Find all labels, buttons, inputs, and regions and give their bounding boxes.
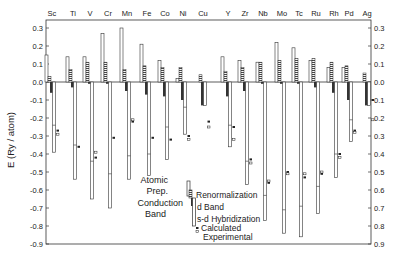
legend-calc-marker — [196, 227, 199, 229]
renormalization-bar — [123, 69, 126, 82]
atomic-prep-bar — [292, 48, 295, 82]
y-tick-label: -0.6 — [30, 186, 43, 195]
y-tick-label: 0.2 — [33, 42, 43, 51]
experimental-marker — [132, 119, 135, 121]
y-tick-label-right: 0.0 — [374, 78, 384, 87]
conduction-band-bar — [368, 82, 371, 105]
y-tick-label: -0.9 — [30, 240, 43, 249]
atomic-prep-bar — [66, 57, 69, 82]
y-tick-label: -0.2 — [30, 114, 43, 123]
element-label-y: Y — [225, 9, 230, 18]
element-label-cu: Cu — [198, 9, 208, 18]
legend: Atomic Prep. Conduction Band Renormaliza… — [137, 175, 260, 242]
conduction-band-bar — [229, 82, 232, 147]
atomic-prep-bar — [309, 60, 312, 82]
bar-group-nb — [256, 62, 270, 220]
renormalization-bar — [104, 62, 107, 82]
legend-atomic-prep-label: Atomic — [140, 175, 168, 185]
bar-group-ni — [176, 68, 190, 141]
calculated-marker — [152, 137, 155, 139]
renormalization-bar — [363, 73, 366, 82]
atomic-prep-bar — [140, 44, 143, 82]
renormalization-bar — [259, 62, 262, 82]
element-label-mn: Mn — [122, 9, 132, 18]
y-tick-label: -0.3 — [30, 132, 43, 141]
renormalization-bar — [295, 59, 298, 82]
calculated-marker — [170, 139, 173, 141]
experimental-marker — [287, 173, 290, 175]
legend-atomic-prep-label-2: Prep. — [146, 186, 168, 196]
renormalization-bar — [278, 60, 281, 82]
cohesive-energy-chart: 0.30.20.10.0-0.1-0.2-0.3-0.4-0.5-0.6-0.7… — [0, 0, 397, 256]
y-tick-label: -0.8 — [30, 222, 43, 231]
experimental-marker — [321, 171, 324, 173]
conduction-band-bar — [204, 82, 207, 105]
renormalization-bar — [345, 66, 348, 82]
experimental-marker — [188, 139, 191, 141]
y-tick-label-right: 0.4 — [374, 150, 384, 159]
experimental-marker — [57, 133, 60, 135]
calculated-marker — [233, 126, 236, 128]
renormalization-bar — [86, 62, 89, 82]
bar-group-co — [158, 60, 172, 159]
legend-exp-label: Experimental — [203, 232, 253, 242]
element-label-sc: Sc — [48, 9, 57, 18]
renormalization-bar — [179, 68, 182, 82]
experimental-marker — [354, 131, 357, 133]
y-tick-label: -0.1 — [30, 96, 43, 105]
conduction-band-bar — [350, 82, 353, 141]
conduction-band-bar — [184, 82, 187, 134]
atomic-prep-bar — [256, 62, 259, 82]
atomic-prep-bar — [221, 57, 224, 82]
y-tick-label-right: 0.3 — [374, 24, 384, 33]
calculated-marker — [95, 157, 98, 159]
conduction-band-bar — [128, 82, 131, 179]
legend-conduction-swatch — [193, 198, 196, 226]
calculated-marker — [372, 99, 375, 101]
element-label-ni: Ni — [179, 9, 186, 18]
element-label-fe: Fe — [143, 9, 152, 18]
y-tick-label-right: 0.2 — [374, 114, 384, 123]
y-tick-label-right: 0.3 — [374, 132, 384, 141]
calculated-marker — [250, 158, 253, 160]
legend-dband-label: d Band — [197, 202, 224, 212]
y-axis-right: 0.30.20.10.00.10.20.30.40.50.60.70.80.9 — [368, 24, 384, 249]
y-tick-label: 0.1 — [33, 60, 43, 69]
experimental-marker — [304, 173, 307, 175]
y-tick-label-right: 0.6 — [374, 186, 384, 195]
experimental-marker — [208, 126, 211, 128]
renormalization-bar — [330, 62, 333, 82]
bar-group-zr — [238, 60, 252, 184]
renormalization-bar — [48, 77, 51, 82]
y-tick-label-right: 0.8 — [374, 222, 384, 231]
element-label-v: V — [87, 9, 92, 18]
element-label-mo: Mo — [277, 9, 287, 18]
renormalization-bar — [312, 59, 315, 82]
element-label-rh: Rh — [329, 9, 339, 18]
conduction-band-bar — [317, 82, 320, 213]
y-tick-label: 0.0 — [33, 78, 43, 87]
experimental-marker — [339, 157, 342, 159]
conduction-band-bar — [74, 82, 77, 179]
element-label-cr: Cr — [104, 9, 112, 18]
y-tick-label-right: 0.5 — [374, 168, 384, 177]
renormalization-bar — [161, 68, 164, 82]
bar-group-pd — [342, 66, 356, 142]
calculated-marker — [304, 176, 307, 178]
element-label-nb: Nb — [258, 9, 268, 18]
bar-group-ag — [363, 73, 374, 121]
atomic-prep-bar — [176, 78, 179, 82]
element-label-zr: Zr — [241, 9, 249, 18]
y-tick-label-right: 0.2 — [374, 42, 384, 51]
element-label-ti: Ti — [70, 9, 76, 18]
bar-group-mn — [120, 28, 134, 179]
element-label-co: Co — [160, 9, 170, 18]
experimental-marker — [233, 139, 236, 141]
conduction-band-bar — [283, 82, 286, 233]
legend-conduction-label: Conduction — [137, 198, 183, 208]
conduction-band-bar — [264, 82, 267, 221]
experimental-marker — [250, 162, 253, 164]
atomic-prep-bar — [238, 60, 241, 82]
legend-renorm-swatch — [189, 190, 192, 198]
experimental-marker — [372, 119, 375, 121]
